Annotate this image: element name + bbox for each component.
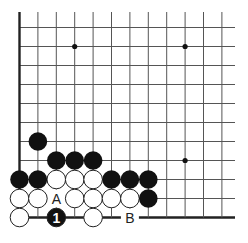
white-stone [10, 189, 29, 208]
black-stone [139, 189, 158, 208]
black-stone [102, 170, 121, 189]
star-point [183, 44, 188, 49]
white-stone [102, 189, 121, 208]
point-label: B [125, 210, 134, 226]
black-stone [84, 151, 103, 170]
move-number: 1 [52, 210, 60, 226]
black-stone [139, 170, 158, 189]
white-stone [121, 189, 140, 208]
white-stone [84, 170, 103, 189]
white-stone [29, 189, 48, 208]
stones: 1 [10, 132, 157, 227]
black-stone [47, 151, 66, 170]
black-stone [29, 132, 48, 151]
white-stone [10, 208, 29, 227]
black-stone [10, 170, 29, 189]
go-board: 1 AB [0, 0, 248, 243]
black-stone [65, 151, 84, 170]
white-stone [65, 170, 84, 189]
black-stone [121, 170, 140, 189]
star-point [72, 44, 77, 49]
white-stone [65, 189, 84, 208]
black-stone [29, 170, 48, 189]
white-stone [47, 170, 66, 189]
star-point [183, 158, 188, 163]
point-label: A [52, 191, 62, 207]
white-stone [84, 208, 103, 227]
white-stone [84, 189, 103, 208]
